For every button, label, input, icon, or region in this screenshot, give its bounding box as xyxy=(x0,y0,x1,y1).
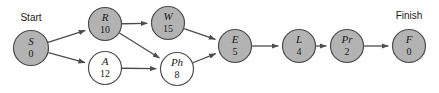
node-value-s: 0 xyxy=(29,48,34,59)
node-letter-w: W xyxy=(163,10,173,22)
node-value-ph: 8 xyxy=(175,69,180,80)
node-w[interactable]: W15 xyxy=(152,7,185,40)
edge-w-to-e xyxy=(184,29,215,40)
node-f[interactable]: F0 xyxy=(393,30,426,63)
node-letter-a: A xyxy=(101,55,109,67)
edge-s-to-r xyxy=(48,30,85,42)
node-letter-l: L xyxy=(295,33,302,45)
node-value-pr: 2 xyxy=(345,46,350,57)
node-value-e: 5 xyxy=(233,46,238,57)
edge-s-to-a xyxy=(48,53,85,63)
finish-label: Finish xyxy=(396,10,423,21)
node-s[interactable]: S0 xyxy=(14,31,49,66)
node-l[interactable]: L4 xyxy=(283,30,316,63)
edge-ph-to-e xyxy=(193,54,216,63)
node-value-w: 15 xyxy=(163,23,173,34)
start-label: Start xyxy=(20,12,41,23)
node-pr[interactable]: Pr2 xyxy=(331,30,364,63)
node-letter-r: R xyxy=(101,11,109,23)
node-e[interactable]: E5 xyxy=(219,30,252,63)
node-letter-pr: Pr xyxy=(341,33,354,45)
node-layer: S0R10W15A12Ph8E5L4Pr2F0 xyxy=(14,7,426,86)
diagram-canvas: S0R10W15A12Ph8E5L4Pr2F0 Start Finish xyxy=(0,0,439,93)
node-value-f: 0 xyxy=(407,46,412,57)
node-letter-ph: Ph xyxy=(170,56,184,68)
node-letter-f: F xyxy=(405,33,413,45)
node-letter-e: E xyxy=(231,33,239,45)
node-value-a: 12 xyxy=(100,68,110,79)
node-ph[interactable]: Ph8 xyxy=(161,53,194,86)
node-a[interactable]: A12 xyxy=(89,52,122,85)
node-value-r: 10 xyxy=(100,24,110,35)
endpoint-label-layer: Start Finish xyxy=(20,10,422,23)
node-r[interactable]: R10 xyxy=(89,8,122,41)
node-value-l: 4 xyxy=(297,46,302,57)
network-diagram: S0R10W15A12Ph8E5L4Pr2F0 Start Finish xyxy=(0,0,439,93)
edge-r-to-ph xyxy=(119,33,159,58)
node-letter-s: S xyxy=(28,35,34,47)
